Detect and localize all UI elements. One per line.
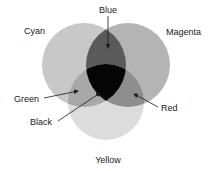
- label-red: Red: [161, 103, 178, 113]
- label-magenta: Magenta: [166, 27, 201, 37]
- venn-diagram: Blue Cyan Magenta Green Black Red Yellow: [0, 0, 214, 171]
- label-yellow: Yellow: [95, 155, 121, 165]
- label-cyan: Cyan: [24, 26, 45, 36]
- label-blue: Blue: [99, 5, 117, 15]
- label-black: Black: [30, 117, 53, 127]
- label-green: Green: [14, 94, 39, 104]
